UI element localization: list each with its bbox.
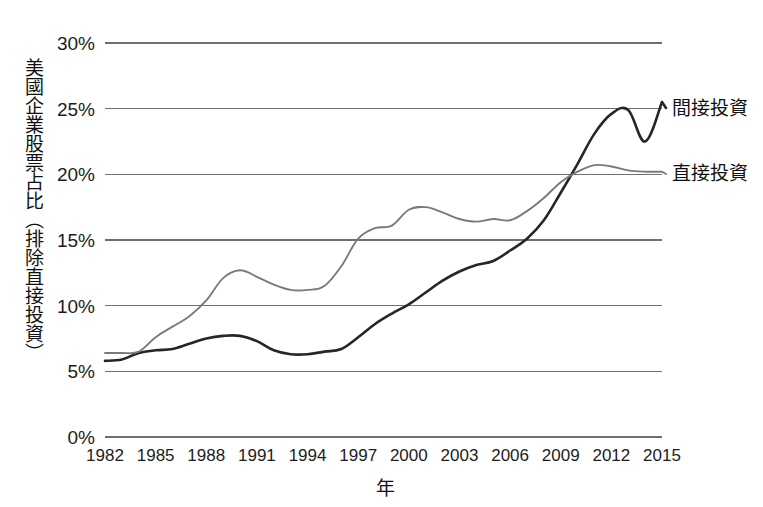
x-tick-label: 1982 — [86, 446, 124, 465]
y-tick-label: 0% — [68, 427, 96, 448]
y-tick-label: 15% — [57, 230, 95, 251]
y-axis-tick-labels: 0%5%10%15%20%25%30% — [57, 33, 95, 448]
x-tick-label: 2000 — [390, 446, 428, 465]
y-tick-label: 5% — [68, 361, 96, 382]
x-tick-label: 1994 — [289, 446, 327, 465]
y-tick-label: 25% — [57, 99, 95, 120]
x-tick-label: 2003 — [441, 446, 479, 465]
x-tick-label: 1988 — [187, 446, 225, 465]
x-tick-label: 2006 — [491, 446, 529, 465]
chart-container: 美國企業股票占比（排除直接投資） 0%5%10%15%20%25%30% 198… — [0, 0, 763, 507]
x-tick-label: 1991 — [238, 446, 276, 465]
gridlines — [105, 43, 662, 437]
legend-leader-direct — [662, 172, 666, 174]
x-axis-title: 年 — [376, 478, 395, 499]
series-line-indirect — [105, 102, 662, 361]
legend-leader-lines — [662, 102, 666, 174]
x-tick-label: 2009 — [542, 446, 580, 465]
series-line-direct — [105, 165, 662, 353]
legend-label-direct: 直接投資 — [672, 163, 748, 184]
legend-leader-indirect — [662, 102, 666, 108]
x-tick-label: 2012 — [592, 446, 630, 465]
x-tick-label: 1985 — [137, 446, 175, 465]
y-tick-label: 30% — [57, 33, 95, 54]
y-tick-label: 10% — [57, 296, 95, 317]
line-chart: 0%5%10%15%20%25%30% 19821985198819911994… — [0, 0, 763, 507]
x-tick-label: 1997 — [339, 446, 377, 465]
legend-label-indirect: 間接投資 — [672, 98, 748, 119]
series-lines — [105, 102, 662, 361]
x-tick-label: 2015 — [643, 446, 681, 465]
y-tick-label: 20% — [57, 164, 95, 185]
x-axis-tick-labels: 1982198519881991199419972000200320062009… — [86, 446, 681, 465]
